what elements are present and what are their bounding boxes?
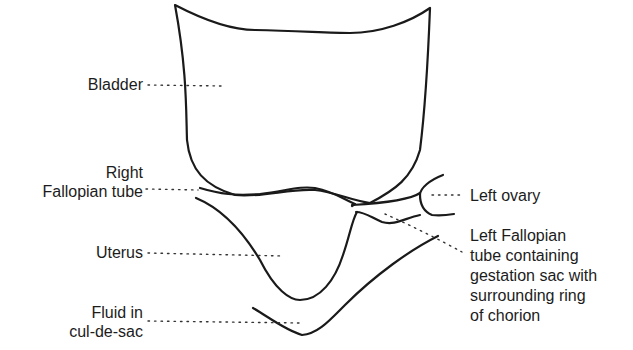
bladder-label: Bladder	[88, 75, 143, 94]
uterus-outline	[196, 198, 357, 300]
left-fallopian-tube-leader	[385, 214, 462, 252]
uterus-leader	[148, 253, 283, 256]
left-ovary-outline	[420, 175, 454, 215]
left-ovary-label: Left ovary	[470, 186, 540, 205]
left-fallopian-tube-label: Left Fallopian tube containing gestation…	[470, 226, 597, 326]
right-fallopian-tube-label: Right Fallopian tube	[42, 163, 143, 201]
bladder-leader	[148, 85, 225, 86]
diagram-canvas: Bladder Right Fallopian tube Uterus Flui…	[0, 0, 633, 350]
left-fallopian-tube-outline	[356, 212, 420, 223]
fluid-label: Fluid in cul-de-sac	[69, 303, 143, 341]
bladder-outline	[175, 5, 430, 203]
right-fallopian-tube-leader	[146, 189, 198, 190]
uterus-label: Uterus	[96, 243, 143, 262]
